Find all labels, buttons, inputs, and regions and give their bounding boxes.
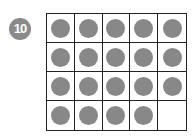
counter-dot-icon [79,106,98,125]
grid-cell [47,101,75,130]
counter-dot-icon [134,106,153,125]
grid-cell [103,101,131,130]
grid-cell [103,72,131,101]
grid-cell [158,43,186,72]
counter-dot-icon [163,19,182,38]
grid-cell [75,14,103,43]
counter-dot-icon [79,19,98,38]
counter-dot-icon [106,77,125,96]
counting-grid [46,13,187,131]
counter-dot-icon [134,48,153,67]
grid-cell [47,43,75,72]
grid-cell [130,72,158,101]
counter-dot-icon [106,106,125,125]
question-number-badge: 10 [9,18,31,40]
counter-dot-icon [134,19,153,38]
grid-cell [158,72,186,101]
grid-cell [75,43,103,72]
grid-cell [130,43,158,72]
counter-dot-icon [106,48,125,67]
counter-dot-icon [163,48,182,67]
grid-cell [130,14,158,43]
grid-cell [103,14,131,43]
counter-dot-icon [51,106,70,125]
grid-cell [158,14,186,43]
grid-cell [75,101,103,130]
counter-dot-icon [79,77,98,96]
grid-cell [47,72,75,101]
grid-cell [158,101,186,130]
counter-dot-icon [106,19,125,38]
counter-dot-icon [163,77,182,96]
counter-dot-icon [51,19,70,38]
grid-cell [130,101,158,130]
counter-dot-icon [134,77,153,96]
grid-cell [103,43,131,72]
grid-cell [75,72,103,101]
grid-cell [47,14,75,43]
counter-dot-icon [51,48,70,67]
counter-dot-icon [51,77,70,96]
counter-dot-icon [79,48,98,67]
